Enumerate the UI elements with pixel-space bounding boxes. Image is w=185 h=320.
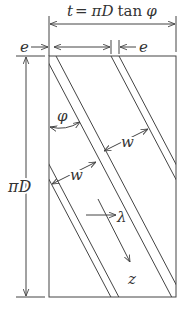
t-dimension-label: t=πDtanφ [67, 2, 157, 20]
helical-strip-diagram: t=πDtanφ e e πD φ w w λ z [0, 0, 185, 320]
stripe-2-edge-a [111, 56, 185, 301]
lambda-label: λ [116, 208, 127, 226]
piD-label: πD [7, 177, 32, 196]
e-left-label: e [20, 38, 29, 56]
phi-label: φ [57, 107, 68, 125]
stripe-1-edge-a [47, 60, 178, 309]
z-label: z [127, 270, 136, 288]
w-label-1: w [70, 166, 83, 184]
w-label-2: w [121, 133, 134, 151]
e-right-label: e [139, 38, 148, 56]
